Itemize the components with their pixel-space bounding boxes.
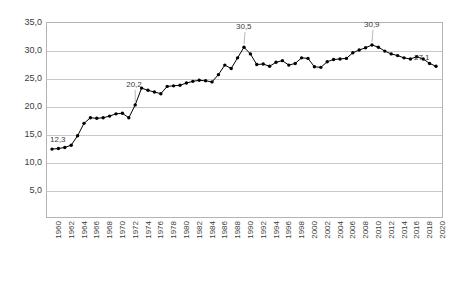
- data-point-marker: [294, 62, 297, 65]
- series-markers: [50, 43, 437, 151]
- data-point-marker: [121, 112, 124, 115]
- data-point-marker: [191, 80, 194, 83]
- data-point-marker: [249, 52, 252, 55]
- data-point-marker: [146, 89, 149, 92]
- x-axis-tick-label: 1986: [221, 221, 229, 239]
- x-axis-tick-label: 1968: [106, 221, 114, 239]
- data-point-marker: [390, 52, 393, 55]
- data-point-label: 20,2: [126, 81, 142, 89]
- x-axis-tick-label: 1960: [55, 221, 63, 239]
- data-point-marker: [262, 62, 265, 65]
- label-leader-line: [244, 32, 245, 44]
- x-axis-tick-label: 1974: [145, 221, 153, 239]
- x-axis-tick-label: 1998: [298, 221, 306, 239]
- series-line: [52, 45, 436, 149]
- label-leader-line: [372, 30, 373, 42]
- data-point-marker: [89, 116, 92, 119]
- x-axis-tick-label: 1980: [183, 221, 191, 239]
- data-point-marker: [76, 134, 79, 137]
- data-point-marker: [114, 112, 117, 115]
- data-point-marker: [102, 116, 105, 119]
- data-point-marker: [300, 56, 303, 59]
- x-axis-tick-label: 2002: [324, 221, 332, 239]
- data-point-marker: [230, 67, 233, 70]
- data-point-label: 30,5: [236, 23, 252, 31]
- data-point-marker: [63, 146, 66, 149]
- data-point-marker: [82, 122, 85, 125]
- x-axis-tick-label: 1990: [247, 221, 255, 239]
- x-axis-tick-label: 2018: [426, 221, 434, 239]
- data-point-marker: [370, 43, 373, 46]
- label-leader-lines: [135, 30, 373, 102]
- x-axis-tick-label: 2016: [413, 221, 421, 239]
- x-axis-tick-label: 2014: [401, 221, 409, 239]
- data-point-marker: [127, 116, 130, 119]
- data-point-label: 30,9: [364, 21, 380, 29]
- data-point-marker: [287, 63, 290, 66]
- data-point-marker: [306, 57, 309, 60]
- data-point-marker: [172, 84, 175, 87]
- data-point-marker: [159, 92, 162, 95]
- x-axis-tick-label: 1994: [273, 221, 281, 239]
- x-axis-tick-label: 1982: [196, 221, 204, 239]
- data-point-marker: [255, 63, 258, 66]
- data-point-marker: [236, 56, 239, 59]
- data-point-marker: [166, 85, 169, 88]
- data-point-marker: [364, 46, 367, 49]
- data-point-marker: [50, 147, 53, 150]
- x-axis-tick-label: 2006: [349, 221, 357, 239]
- x-axis-tick-label: 2010: [375, 221, 383, 239]
- x-axis-tick-label: 1976: [157, 221, 165, 239]
- data-point-marker: [204, 79, 207, 82]
- data-point-marker: [345, 57, 348, 60]
- x-axis-tick-label: 1978: [170, 221, 178, 239]
- data-point-marker: [217, 73, 220, 76]
- x-axis-tick-label: 1992: [260, 221, 268, 239]
- x-axis-tick-label: 1970: [119, 221, 127, 239]
- data-point-marker: [198, 79, 201, 82]
- data-point-marker: [210, 80, 213, 83]
- x-axis-tick-label: 1962: [68, 221, 76, 239]
- data-point-marker: [134, 103, 137, 106]
- data-point-marker: [95, 117, 98, 120]
- x-axis-tick-label: 1988: [234, 221, 242, 239]
- data-point-marker: [326, 60, 329, 63]
- data-point-marker: [383, 49, 386, 52]
- data-point-marker: [332, 58, 335, 61]
- data-point-marker: [281, 59, 284, 62]
- data-point-label: 12,3: [50, 136, 66, 144]
- x-axis-tick-label: 1964: [81, 221, 89, 239]
- x-axis-tick-label: 2000: [311, 221, 319, 239]
- data-point-marker: [358, 48, 361, 51]
- x-axis-tick-label: 1972: [132, 221, 140, 239]
- x-axis-tick-label: 1996: [285, 221, 293, 239]
- data-point-marker: [153, 90, 156, 93]
- data-point-marker: [268, 65, 271, 68]
- data-point-marker: [434, 65, 437, 68]
- x-axis-tick-label: 1966: [93, 221, 101, 239]
- x-axis-tick-label: 1984: [209, 221, 217, 239]
- data-point-marker: [108, 114, 111, 117]
- data-point-marker: [377, 46, 380, 49]
- data-point-marker: [402, 56, 405, 59]
- data-point-marker: [274, 61, 277, 64]
- x-axis-tick-label: 2008: [362, 221, 370, 239]
- data-point-marker: [409, 57, 412, 60]
- x-axis-tick-label: 2012: [388, 221, 396, 239]
- data-point-marker: [70, 144, 73, 147]
- data-point-marker: [223, 63, 226, 66]
- x-axis-tick-label: 2004: [337, 221, 345, 239]
- data-point-marker: [396, 54, 399, 57]
- data-point-marker: [319, 66, 322, 69]
- x-axis-labels: 1960196219641966196819701972197419761978…: [46, 221, 443, 279]
- data-point-marker: [185, 81, 188, 84]
- data-point-marker: [351, 51, 354, 54]
- data-point-marker: [338, 57, 341, 60]
- data-point-marker: [313, 65, 316, 68]
- data-point-marker: [57, 147, 60, 150]
- line-chart: 35,030,025,020,015,010,05,0 12,320,230,5…: [0, 0, 467, 281]
- data-point-marker: [428, 62, 431, 65]
- x-axis-tick-label: 2020: [439, 221, 447, 239]
- data-point-marker: [178, 84, 181, 87]
- data-point-label: 27,1: [414, 54, 430, 62]
